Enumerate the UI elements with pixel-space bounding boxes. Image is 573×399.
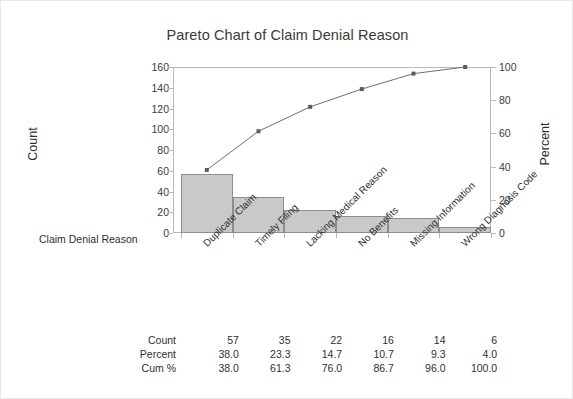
y-axis-tick-label: 140	[129, 82, 169, 94]
table-cell: 96.0	[400, 361, 446, 375]
cumulative-line-marker	[308, 105, 312, 109]
table-cell: 57	[193, 333, 239, 347]
x-axis-tick-mark	[233, 233, 234, 238]
y-axis-tick-label: 100	[129, 123, 169, 135]
secondary-y-axis-tick-mark	[491, 100, 496, 101]
y-axis-tick-label: 0	[129, 227, 169, 239]
table-cell: 4.0	[451, 347, 497, 361]
secondary-y-axis-tick-label: 80	[499, 94, 539, 106]
table-cell: 38.0	[193, 361, 239, 375]
cumulative-line-path	[207, 67, 465, 170]
y-axis-tick-label: 40	[129, 186, 169, 198]
cumulative-line-marker	[463, 65, 467, 69]
data-summary-table: Count57352216146Percent38.023.314.710.79…	[1, 333, 573, 375]
cumulative-line-marker	[205, 168, 209, 172]
table-cell: 38.0	[193, 347, 239, 361]
y-axis-tick-label: 60	[129, 165, 169, 177]
page-title: Pareto Chart of Claim Denial Reason	[1, 27, 573, 43]
table-cell: 100.0	[451, 361, 497, 375]
y-axis-tick-mark	[168, 212, 173, 213]
table-cell: 14	[400, 333, 446, 347]
table-cell: 14.7	[296, 347, 342, 361]
table-cell: 35	[245, 333, 291, 347]
y-axis-title: Count	[26, 84, 40, 204]
table-row-label: Percent	[76, 347, 176, 361]
table-cell: 6	[451, 333, 497, 347]
secondary-y-axis-tick-mark	[491, 167, 496, 168]
x-axis-tick-mark	[439, 233, 440, 238]
x-axis-tick-mark	[181, 233, 182, 238]
y-axis-tick-label: 20	[129, 206, 169, 218]
table-row: Count57352216146	[1, 333, 573, 347]
table-row: Percent38.023.314.710.79.34.0	[1, 347, 573, 361]
y-axis-tick-label: 120	[129, 103, 169, 115]
table-cell: 61.3	[245, 361, 291, 375]
y-axis-tick-mark	[168, 192, 173, 193]
table-cell: 23.3	[245, 347, 291, 361]
cumulative-line-marker	[257, 129, 261, 133]
table-row: Cum %38.061.376.086.796.0100.0	[1, 361, 573, 375]
x-axis-tick-mark	[284, 233, 285, 238]
y-axis-tick-mark	[168, 109, 173, 110]
table-cell: 10.7	[348, 347, 394, 361]
table-cell: 9.3	[400, 347, 446, 361]
secondary-y-axis-tick-label: 60	[499, 127, 539, 139]
y-axis-tick-mark	[168, 150, 173, 151]
pareto-chart-page: Pareto Chart of Claim Denial Reason Coun…	[0, 0, 573, 399]
x-axis-title: Claim Denial Reason	[39, 233, 138, 245]
y-axis-tick-mark	[168, 88, 173, 89]
y-axis-tick-mark	[168, 171, 173, 172]
secondary-y-axis-tick-mark	[491, 200, 496, 201]
cumulative-line-marker	[412, 72, 416, 76]
y-axis-tick-mark	[168, 67, 173, 68]
cumulative-line-marker	[360, 87, 364, 91]
y-axis-tick-mark	[168, 129, 173, 130]
x-axis-tick-mark	[388, 233, 389, 238]
secondary-y-axis-tick-label: 100	[499, 61, 539, 73]
table-cell: 22	[296, 333, 342, 347]
secondary-y-axis-tick-mark	[491, 67, 496, 68]
table-row-label: Count	[76, 333, 176, 347]
y-axis-tick-label: 80	[129, 144, 169, 156]
y-axis-tick-label: 160	[129, 61, 169, 73]
table-cell: 16	[348, 333, 394, 347]
table-cell: 86.7	[348, 361, 394, 375]
x-axis-tick-mark	[336, 233, 337, 238]
secondary-y-axis-title: Percent	[538, 84, 552, 204]
secondary-y-axis-tick-label: 0	[499, 227, 539, 239]
y-axis-tick-mark	[168, 233, 173, 234]
secondary-y-axis-tick-mark	[491, 133, 496, 134]
x-axis-tick-mark	[491, 233, 492, 238]
table-cell: 76.0	[296, 361, 342, 375]
table-row-label: Cum %	[76, 361, 176, 375]
